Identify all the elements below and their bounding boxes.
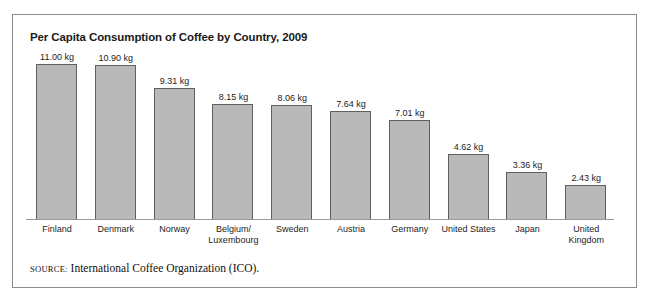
bar-slot: 9.31 kg [146, 55, 204, 220]
bar[interactable] [389, 120, 430, 220]
chart-title: Per Capita Consumption of Coffee by Coun… [30, 31, 307, 43]
plot-area: 11.00 kg10.90 kg9.31 kg8.15 kg8.06 kg7.6… [26, 55, 615, 220]
bar-value-label: 3.36 kg [498, 160, 556, 170]
bar-slot: 10.90 kg [87, 55, 145, 220]
bar-slot: 8.06 kg [263, 55, 321, 220]
bar-value-label: 7.64 kg [322, 99, 380, 109]
bar[interactable] [212, 104, 253, 220]
axis-baseline [26, 219, 614, 220]
bar-slot: 11.00 kg [28, 55, 86, 220]
category-label: Norway [143, 224, 207, 235]
bar-value-label: 11.00 kg [28, 52, 86, 62]
bar-slot: 8.15 kg [204, 55, 262, 220]
bar[interactable] [565, 185, 606, 220]
bar-value-label: 9.31 kg [146, 76, 204, 86]
bar[interactable] [154, 88, 195, 220]
category-label: UnitedKingdom [554, 224, 618, 246]
bar-slot: 2.43 kg [557, 55, 615, 220]
category-label: Austria [319, 224, 383, 235]
bar[interactable] [506, 172, 547, 220]
category-label: United States [437, 224, 501, 235]
bar[interactable] [95, 65, 136, 220]
bar-value-label: 8.06 kg [263, 93, 321, 103]
source-note: SOURCE: International Coffee Organizatio… [30, 262, 259, 274]
bar[interactable] [271, 105, 312, 220]
category-axis-labels: FinlandDenmarkNorwayBelgium/LuxembourgSw… [26, 224, 615, 258]
bar-value-label: 2.43 kg [557, 173, 615, 183]
bar-slot: 4.62 kg [440, 55, 498, 220]
figure-frame: Per Capita Consumption of Coffee by Coun… [12, 14, 637, 288]
bar-slot: 7.64 kg [322, 55, 380, 220]
category-label: Denmark [84, 224, 148, 235]
category-label: Japan [495, 224, 559, 235]
source-note-text: International Coffee Organization (ICO). [68, 262, 260, 274]
category-label: Sweden [260, 224, 324, 235]
bar-value-label: 10.90 kg [87, 53, 145, 63]
category-label: Germany [378, 224, 442, 235]
bar[interactable] [330, 111, 371, 220]
bar[interactable] [36, 64, 77, 220]
category-label: Finland [25, 224, 89, 235]
bar-value-label: 4.62 kg [440, 142, 498, 152]
category-label: Belgium/Luxembourg [201, 224, 265, 246]
bar-slot: 7.01 kg [381, 55, 439, 220]
bar[interactable] [448, 154, 489, 220]
bar-value-label: 8.15 kg [204, 92, 262, 102]
source-note-label: SOURCE: [30, 264, 68, 274]
bar-slot: 3.36 kg [498, 55, 556, 220]
bar-value-label: 7.01 kg [381, 108, 439, 118]
